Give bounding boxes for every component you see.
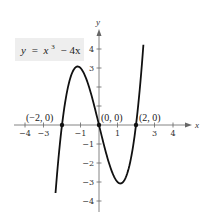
y-axis-label: y [95, 17, 100, 27]
intercept-point [97, 123, 101, 127]
equation-rest: − 4x [61, 44, 81, 56]
intercept-point [60, 123, 64, 127]
equation-label: y = x 3 − 4x [15, 38, 84, 61]
intercept-point [134, 123, 138, 127]
x-tick-label: 4 [170, 129, 175, 138]
intercept-label: (0, 0) [101, 112, 123, 124]
equation-equals: = [32, 44, 38, 56]
y-tick-label: −3 [82, 178, 94, 187]
y-tick-label: 3 [89, 64, 94, 73]
equation-exponent: 3 [51, 43, 55, 51]
cubic-function-graph: y = x 3 − 4x x y −4−3−1134 43−1−2−3−4 (−… [0, 0, 209, 214]
x-tick-label: 1 [115, 129, 120, 138]
intercept-label: (2, 0) [139, 112, 161, 124]
x-axis-arrow-icon [185, 123, 192, 128]
intercept-label: (−2, 0) [26, 112, 53, 124]
x-tick-label: −1 [75, 129, 87, 138]
y-tick-label: 4 [89, 45, 94, 54]
y-tick-label: −4 [82, 197, 94, 206]
equation-lhs: y [20, 44, 26, 56]
y-tick-label: −1 [82, 140, 94, 149]
x-axis-label: x [194, 120, 199, 130]
x-tick-label: −4 [19, 129, 31, 138]
x-tick-label: −3 [38, 129, 50, 138]
y-tick-label: −2 [82, 159, 94, 168]
x-tick-label: 3 [152, 129, 157, 138]
cubic-curve [56, 45, 144, 193]
y-axis-arrow-icon [97, 29, 102, 36]
equation-base: x [43, 44, 49, 56]
